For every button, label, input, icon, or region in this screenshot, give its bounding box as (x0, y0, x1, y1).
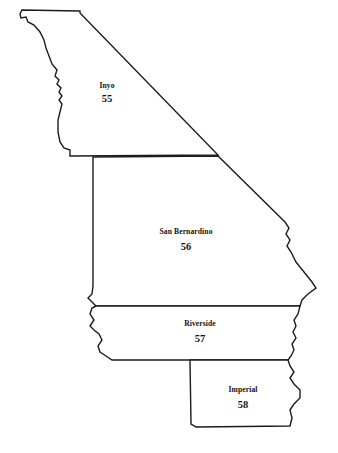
county-code-inyo: 55 (102, 93, 113, 104)
map-figure: Inyo 55 San Bernardino 56 Riverside 57 I… (0, 0, 338, 453)
county-label-riverside: Riverside (184, 319, 216, 328)
county-label-inyo: Inyo (99, 81, 114, 90)
county-region-imperial[interactable]: Imperial 58 (190, 360, 300, 427)
county-label-imperial: Imperial (228, 385, 257, 394)
county-code-imperial: 58 (238, 399, 249, 410)
county-code-san-bernardino: 56 (181, 241, 192, 252)
county-region-riverside[interactable]: Riverside 57 (90, 306, 300, 360)
county-code-riverside: 57 (195, 333, 206, 344)
county-label-san-bernardino: San Bernardino (159, 227, 212, 236)
county-map: Inyo 55 San Bernardino 56 Riverside 57 I… (0, 0, 338, 453)
